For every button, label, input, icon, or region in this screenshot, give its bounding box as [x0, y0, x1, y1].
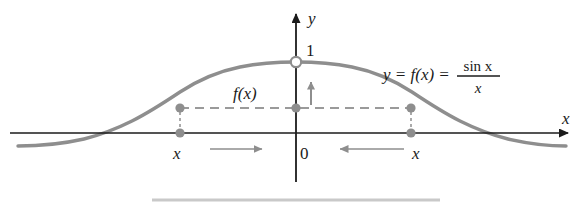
- sinc-function-graph: y x 1 0 f(x) x x y = f(x) = sin x x: [0, 0, 584, 205]
- limit-value-label: 1: [306, 41, 315, 60]
- point-left-on-axis: [175, 128, 184, 137]
- equation-numerator: sin x: [464, 58, 493, 74]
- point-right-on-axis: [406, 128, 415, 137]
- x-right-label: x: [411, 144, 420, 163]
- math-figure: y x 1 0 f(x) x x y = f(x) = sin x x: [0, 0, 584, 205]
- equation-denominator: x: [474, 80, 482, 96]
- figure-background: [0, 0, 584, 205]
- y-axis-label: y: [306, 9, 316, 28]
- point-value-on-y-axis: [291, 103, 300, 112]
- open-circle-limit-point: [291, 57, 301, 67]
- point-left-on-curve: [175, 103, 184, 112]
- x-axis-label: x: [561, 109, 570, 128]
- x-left-label: x: [172, 144, 181, 163]
- equation-left-side: y = f(x) =: [381, 65, 450, 84]
- origin-label: 0: [300, 144, 309, 163]
- fx-value-label: f(x): [233, 84, 257, 103]
- point-right-on-curve: [406, 103, 415, 112]
